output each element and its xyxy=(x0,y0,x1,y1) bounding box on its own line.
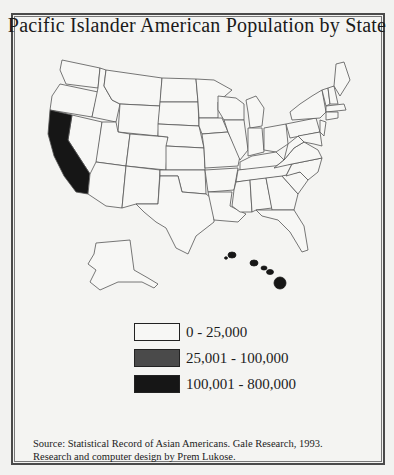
state-mississippi[interactable] xyxy=(232,180,252,212)
state-south-dakota[interactable] xyxy=(158,102,199,126)
legend-swatch-mid xyxy=(134,349,180,367)
state-florida[interactable] xyxy=(256,210,308,252)
legend-swatch-low xyxy=(134,323,180,341)
us-states-map xyxy=(0,0,394,475)
legend-item: 100,001 - 800,000 xyxy=(134,372,296,396)
legend-swatch-high xyxy=(134,375,180,393)
source-credit: Source: Statistical Record of Asian Amer… xyxy=(33,437,323,463)
state-massachusetts[interactable] xyxy=(326,104,346,112)
state-arkansas[interactable] xyxy=(205,168,238,192)
state-arizona[interactable] xyxy=(88,162,126,208)
state-connecticut[interactable] xyxy=(326,112,338,120)
state-wyoming[interactable] xyxy=(118,104,160,136)
state-iowa[interactable] xyxy=(199,118,228,134)
legend-item: 25,001 - 100,000 xyxy=(134,346,296,370)
legend-label: 25,001 - 100,000 xyxy=(186,350,289,367)
legend-label: 0 - 25,000 xyxy=(186,324,247,341)
source-line: Source: Statistical Record of Asian Amer… xyxy=(33,437,323,450)
state-colorado[interactable] xyxy=(126,134,168,170)
state-wisconsin[interactable] xyxy=(218,96,244,120)
state-hawaii[interactable] xyxy=(225,252,287,289)
state-washington[interactable] xyxy=(60,60,100,88)
state-maine[interactable] xyxy=(334,62,350,96)
state-north-dakota[interactable] xyxy=(160,78,198,102)
state-new-york[interactable] xyxy=(290,90,326,120)
legend-item: 0 - 25,000 xyxy=(134,320,296,344)
credit-line: Research and computer design by Prem Luk… xyxy=(33,450,323,463)
state-alaska[interactable] xyxy=(88,240,158,290)
state-indiana[interactable] xyxy=(248,128,264,156)
state-michigan[interactable] xyxy=(246,96,264,128)
state-montana[interactable] xyxy=(104,70,162,106)
state-new-jersey[interactable] xyxy=(320,120,326,136)
state-kansas[interactable] xyxy=(166,146,205,170)
state-ohio[interactable] xyxy=(264,124,288,152)
map-legend: 0 - 25,000 25,001 - 100,000 100,001 - 80… xyxy=(134,320,296,398)
state-new-mexico[interactable] xyxy=(122,166,160,208)
legend-label: 100,001 - 800,000 xyxy=(186,376,296,393)
